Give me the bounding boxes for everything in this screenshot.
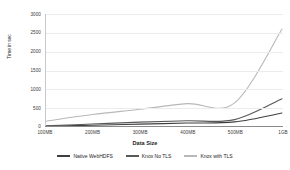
series-line-knox-no-tls [45, 99, 282, 126]
x-axis-title: Data Size [0, 140, 290, 147]
x-tick-label-300mb: 300MB [120, 130, 160, 135]
x-tick-label-100mb: 100MB [25, 130, 65, 135]
legend-label-knox-with-tls: Knox with TLS [200, 153, 232, 159]
legend-item-knox-no-tls[interactable]: Knox No TLS [126, 153, 172, 159]
x-axis-line [45, 126, 283, 127]
legend-item-native-webhdfs[interactable]: Native WebHDFS [57, 153, 112, 159]
gridline-2000 [45, 52, 283, 53]
gridline-1000 [45, 89, 283, 90]
legend-label-knox-no-tls: Knox No TLS [142, 153, 172, 159]
y-tick-label-0: 0 [1, 124, 41, 129]
y-tick-label-1000: 1000 [1, 87, 41, 92]
y-tick-label-2000: 2000 [1, 49, 41, 54]
gridline-500 [45, 108, 283, 109]
gridline-2500 [45, 33, 283, 34]
gridline-1500 [45, 71, 283, 72]
line-chart: Time in sec 3000 2500 2000 1500 1000 500… [0, 0, 290, 170]
chart-legend: Native WebHDFS Knox No TLS Knox with TLS [0, 153, 290, 159]
x-tick-label-500mb: 500MB [215, 130, 255, 135]
y-tick-label-1500: 1500 [1, 68, 41, 73]
x-tick-label-400mb: 400MB [168, 130, 208, 135]
plot-area [45, 14, 283, 127]
x-tick-label-200mb: 200MB [73, 130, 113, 135]
y-axis-line [45, 14, 46, 127]
x-tick-label-1gb: 1GB [263, 130, 290, 135]
gridline-3000 [45, 14, 283, 15]
y-tick-label-2500: 2500 [1, 30, 41, 35]
legend-swatch-icon-knox-with-tls [184, 155, 197, 156]
legend-swatch-icon-native-webhdfs [57, 155, 70, 156]
y-tick-label-500: 500 [1, 106, 41, 111]
legend-label-native-webhdfs: Native WebHDFS [73, 153, 112, 159]
legend-swatch-icon-knox-no-tls [126, 155, 139, 156]
y-tick-label-3000: 3000 [1, 12, 41, 17]
legend-item-knox-with-tls[interactable]: Knox with TLS [184, 153, 232, 159]
